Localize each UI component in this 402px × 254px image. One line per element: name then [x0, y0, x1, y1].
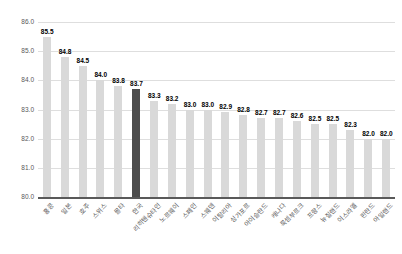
x-tick-label: 일본: [59, 202, 72, 215]
y-axis: 86.085.084.083.082.081.080.0: [0, 22, 34, 197]
gridline: [38, 80, 395, 81]
bar-value-label: 82.3: [344, 121, 357, 128]
bar-value-label: 82.0: [380, 130, 393, 137]
chart-bar: [96, 80, 104, 197]
bar-value-label: 82.5: [309, 115, 322, 122]
bar-value-label: 84.5: [77, 57, 90, 64]
chart-bar: [293, 121, 301, 197]
chart-bar: [114, 86, 122, 197]
chart-bar: [329, 124, 337, 197]
chart-bar: [79, 66, 87, 197]
y-tick-label: 80.0: [0, 193, 34, 201]
bar-value-label: 83.3: [148, 92, 161, 99]
gridline: [38, 139, 395, 140]
gridline: [38, 110, 395, 111]
chart-bar: [186, 110, 194, 198]
plot-area: 85.584.884.584.083.883.783.383.283.083.0…: [38, 22, 395, 197]
bar-value-label: 84.8: [59, 48, 72, 55]
bar-value-label: 82.9: [219, 103, 232, 110]
x-tick-label: 한국: [131, 202, 144, 215]
chart-bar: [364, 139, 372, 197]
y-tick-label: 86.0: [0, 18, 34, 26]
bar-value-label: 82.0: [362, 130, 375, 137]
chart-bar: [275, 118, 283, 197]
chart-bar: [150, 101, 158, 197]
bar-value-label: 83.0: [201, 101, 214, 108]
y-tick-label: 83.0: [0, 106, 34, 114]
x-axis-line: [38, 197, 395, 199]
chart-bar: [311, 124, 319, 197]
bar-value-label: 83.8: [112, 77, 125, 84]
chart-bar-highlight: [132, 89, 140, 197]
x-tick-label: 홍콩: [41, 202, 54, 215]
y-tick-label: 81.0: [0, 164, 34, 172]
chart-bar: [61, 57, 69, 197]
bar-value-label: 82.6: [291, 112, 304, 119]
chart-bar: [239, 115, 247, 197]
chart-bar: [382, 139, 390, 197]
bar-value-label: 82.8: [237, 106, 250, 113]
y-tick-label: 85.0: [0, 47, 34, 55]
gridline: [38, 51, 395, 52]
gridline: [38, 22, 395, 23]
bar-value-label: 83.0: [184, 101, 197, 108]
chart-bar: [43, 37, 51, 197]
chart-bar: [346, 130, 354, 197]
x-tick-label: 아일랜드: [372, 202, 394, 224]
bar-value-label: 83.2: [166, 95, 179, 102]
chart-bar: [221, 112, 229, 197]
bar-value-label: 85.5: [41, 28, 54, 35]
chart-bar: [168, 104, 176, 197]
bar-value-label: 82.7: [255, 109, 268, 116]
bar-value-label: 82.7: [273, 109, 286, 116]
x-tick-label: 스위스: [91, 202, 109, 220]
x-tick-label: 몰타: [113, 202, 126, 215]
chart-bar: [257, 118, 265, 197]
bar-value-label: 83.7: [130, 80, 143, 87]
bar-value-label: 82.5: [326, 115, 339, 122]
bar-value-label: 84.0: [94, 71, 107, 78]
y-tick-label: 84.0: [0, 76, 34, 84]
chart-bar: [204, 110, 212, 198]
x-axis: 홍콩일본호주스위스몰타한국리히텐슈타인노르웨이스페인스웨덴이탈리아싱가포르아이슬…: [38, 200, 395, 254]
x-tick-label: 호주: [77, 202, 90, 215]
x-tick-label: 스페인: [180, 202, 198, 220]
y-tick-label: 82.0: [0, 135, 34, 143]
gridline: [38, 168, 395, 169]
bar-chart: 86.085.084.083.082.081.080.0 85.584.884.…: [0, 0, 402, 254]
